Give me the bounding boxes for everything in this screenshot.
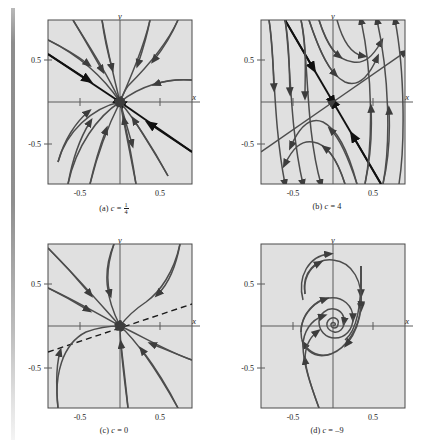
panel-d-caption-value: –9 [335,426,343,435]
panel-b-caption-label: (b) [313,202,323,211]
panel-b-caption: (b) c = 4 [241,202,413,211]
panel-c-ytick-pos: 0.5 [31,280,41,289]
phase-portrait-figure: y [0,0,426,448]
panel-a-xtick-pos: 0.5 [155,189,165,198]
panel-d-xtick-neg: -0.5 [287,413,300,422]
panel-c-plot: y [28,236,200,422]
panel-c-caption-value: 0 [124,426,128,435]
panel-c-caption-var: c [111,426,115,435]
panel-a-xtick-neg: -0.5 [74,189,87,198]
panel-a-plot: y [28,12,200,198]
panel-d-svg: y [241,236,413,422]
panel-a-svg: y [28,12,200,198]
panel-a-caption-var: c [111,204,115,213]
panel-a-xlabel: x [191,92,196,102]
panel-c-xlabel: x [191,316,196,326]
panel-d-xlabel: x [404,316,409,326]
panel-d-caption-eq: = [328,426,333,435]
panel-b-caption-eq: = [330,202,335,211]
panel-a-ytick-pos: 0.5 [31,56,41,65]
panel-c-svg: y [28,236,200,422]
panel-b: y [241,12,413,224]
panel-d: y [241,236,413,448]
panel-b-xtick-pos: 0.5 [368,189,378,198]
panel-a-caption-denominator: 4 [124,209,129,215]
panel-c-caption-eq: = [117,426,122,435]
panel-c: y [28,236,200,448]
panel-c-caption: (c) c = 0 [28,426,200,435]
panel-b-xlabel: x [404,92,409,102]
panel-d-xtick-pos: 0.5 [368,413,378,422]
panel-b-caption-var: c [325,202,329,211]
panel-b-ytick-neg: -0.5 [241,140,254,149]
panel-b-svg: y [241,12,413,198]
panel-d-ytick-neg: -0.5 [241,364,254,373]
panel-a-caption-label: (a) [99,204,108,213]
panel-a-caption-eq: = [117,204,122,213]
panel-b-ytick-pos: 0.5 [244,56,254,65]
panel-b-plot: y [241,12,413,198]
panel-b-caption-value: 4 [337,202,341,211]
panel-c-xtick-pos: 0.5 [155,413,165,422]
panel-b-xtick-neg: -0.5 [287,189,300,198]
panel-d-plot: y [241,236,413,422]
panel-a-ytick-neg: -0.5 [28,140,41,149]
panel-d-caption-var: c [322,426,326,435]
panel-c-ytick-neg: -0.5 [28,364,41,373]
panel-a: y [28,12,200,224]
panel-d-ytick-pos: 0.5 [244,280,254,289]
panel-d-caption: (d) c = –9 [241,426,413,435]
panel-a-caption: (a) c = 14 [28,202,200,215]
panel-c-xtick-neg: -0.5 [74,413,87,422]
panel-c-caption-label: (c) [100,426,109,435]
panel-d-caption-label: (d) [310,426,320,435]
panel-a-caption-fraction: 14 [124,202,129,215]
